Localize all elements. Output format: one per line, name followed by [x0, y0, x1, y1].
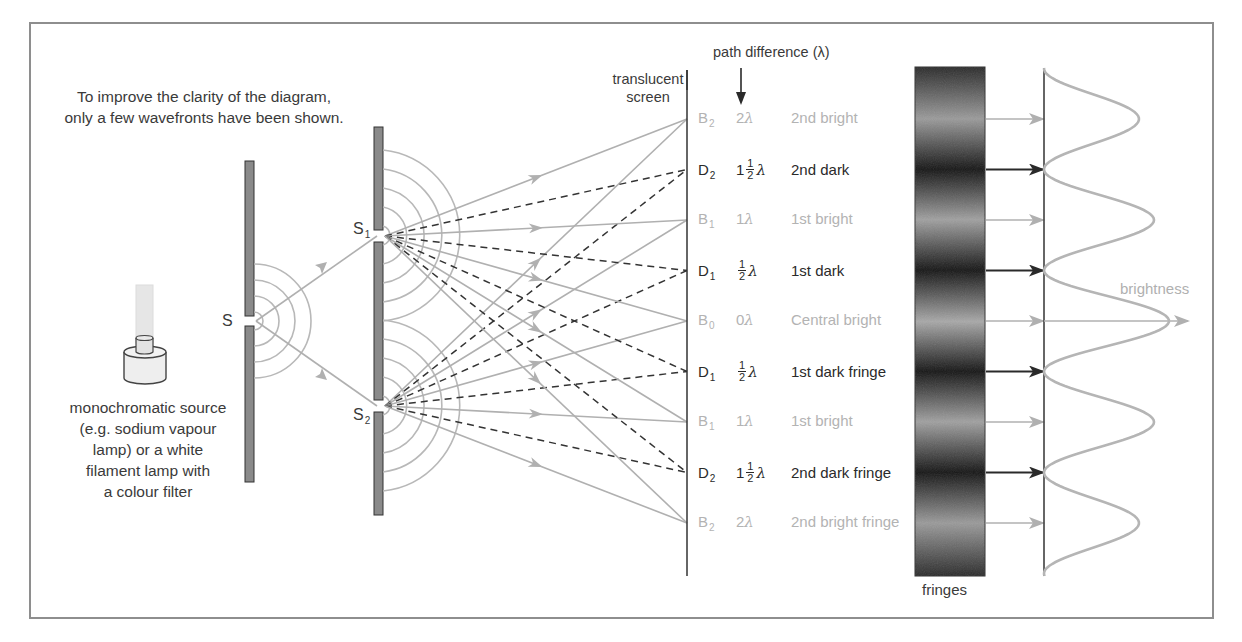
fringe-point-label: B: [698, 109, 708, 126]
brightness-curve: [1044, 68, 1169, 576]
path-difference-label: path difference (λ): [713, 43, 830, 61]
path-diff-fraction: 12: [738, 360, 746, 383]
lambda-symbol: λ: [744, 311, 754, 329]
path-difference-value: 1λ: [736, 210, 791, 228]
lambda-symbol: λ: [744, 412, 754, 430]
screen-label: translucent screen: [612, 70, 684, 106]
fringes-label: fringes: [922, 581, 967, 599]
ray-s-s2: [256, 321, 377, 406]
fringe-point-subscript: 1: [709, 219, 715, 230]
fringe-arrows: [986, 119, 1043, 523]
path-difference-value: 2λ: [736, 513, 791, 531]
path-difference-value: 12λ: [736, 261, 791, 284]
path-difference-value: 0λ: [736, 311, 791, 329]
lambda-symbol: λ: [756, 464, 766, 482]
ray-s-s1: [256, 236, 377, 321]
fringe-point-label: B: [698, 311, 708, 328]
fringe-row: B00λCentral bright: [698, 311, 881, 331]
lamp-icon: [124, 285, 166, 384]
source-label-line1: monochromatic source: [48, 397, 248, 418]
fringe-point-label: D: [698, 262, 709, 279]
slit-s1-sub: 1: [365, 229, 371, 240]
fringe-point-subscript: 2: [710, 170, 716, 181]
lambda-symbol: λ: [744, 513, 754, 531]
path-diff-whole: 1: [736, 161, 744, 178]
fringe-row: D112λ1st dark fringe: [698, 362, 886, 385]
slit-s2-sub: 2: [365, 415, 371, 426]
fringe-point-label: D: [698, 363, 709, 380]
fringe-row: D2112λ2nd dark fringe: [698, 463, 891, 486]
clarity-note-line1: To improve the clarity of the diagram,: [44, 86, 364, 107]
fringe-description: 2nd dark fringe: [791, 464, 891, 481]
fringe-description: 1st dark fringe: [791, 363, 886, 380]
fringe-row: B22λ2nd bright: [698, 109, 858, 129]
fringe-point-subscript: 2: [709, 118, 715, 129]
fringe-description: 2nd dark: [791, 161, 849, 178]
lambda-symbol: λ: [756, 161, 766, 179]
fringe-point-subscript: 2: [709, 522, 715, 533]
path-diff-fraction: 12: [746, 158, 754, 181]
fringe-description: 2nd bright: [791, 109, 858, 126]
fringe-description: 1st bright: [791, 412, 853, 429]
path-difference-value: 2λ: [736, 109, 791, 127]
fringe-point-subscript: 1: [709, 421, 715, 432]
clarity-note: To improve the clarity of the diagram, o…: [44, 86, 364, 128]
screen-label-line1: translucent: [612, 70, 684, 88]
path-difference-value: 12λ: [736, 362, 791, 385]
fringe-description: Central bright: [791, 311, 881, 328]
source-label-line4: filament lamp with: [48, 460, 248, 481]
fringe-point-subscript: 1: [710, 372, 716, 383]
path-diff-fraction: 12: [746, 461, 754, 484]
fringe-row: B11λ1st bright: [698, 210, 853, 230]
fringe-point-label: B: [698, 412, 708, 429]
screen-label-line2: screen: [612, 88, 684, 106]
fringe-point-subscript: 2: [710, 473, 716, 484]
interference-rays: [385, 119, 687, 523]
fringe-row: B11λ1st bright: [698, 412, 853, 432]
fringe-point-subscript: 0: [709, 320, 715, 331]
clarity-note-line2: only a few wavefronts have been shown.: [44, 107, 364, 128]
fringe-point-label: D: [698, 161, 709, 178]
fringe-point-subscript: 1: [710, 271, 716, 282]
brightness-label: brightness: [1120, 280, 1189, 298]
lambda-symbol: λ: [744, 109, 754, 127]
fringe-description: 1st bright: [791, 210, 853, 227]
double-slit-diagram: To improve the clarity of the diagram, o…: [0, 0, 1242, 642]
source-label: monochromatic source (e.g. sodium vapour…: [48, 397, 248, 502]
lambda-symbol: λ: [744, 210, 754, 228]
fringe-point-label: B: [698, 210, 708, 227]
wavefronts-s: [254, 264, 311, 378]
fringe-row: D112λ1st dark: [698, 261, 844, 284]
source-label-line3: lamp) or a white: [48, 439, 248, 460]
source-label-line5: a colour filter: [48, 481, 248, 502]
fringe-point-label: D: [698, 464, 709, 481]
path-difference-value: 112λ: [736, 463, 791, 486]
slit-s2-letter: S: [353, 406, 364, 423]
slit-s1-label: S1: [353, 220, 370, 240]
path-diff-whole: 1: [736, 464, 744, 481]
fringe-row: B22λ2nd bright fringe: [698, 513, 899, 533]
path-difference-value: 1λ: [736, 412, 791, 430]
fringe-row: D2112λ2nd dark: [698, 160, 849, 183]
path-diff-fraction: 12: [738, 259, 746, 282]
fringe-description: 2nd bright fringe: [791, 513, 899, 530]
path-difference-value: 112λ: [736, 160, 791, 183]
slit-s1-letter: S: [353, 220, 364, 237]
fringe-point-label: B: [698, 513, 708, 530]
slit-s-label: S: [222, 312, 233, 330]
source-label-line2: (e.g. sodium vapour: [48, 418, 248, 439]
double-slit-barrier: [374, 127, 383, 515]
slit-s2-label: S2: [353, 406, 370, 426]
lambda-symbol: λ: [748, 363, 758, 381]
fringe-description: 1st dark: [791, 262, 844, 279]
lambda-symbol: λ: [748, 262, 758, 280]
